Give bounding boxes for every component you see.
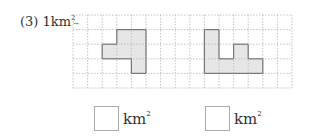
grid-shapes — [102, 30, 263, 74]
left-shape-cell — [131, 44, 146, 59]
right-shape-cell — [248, 59, 263, 74]
answer-unit-2: km2 — [234, 110, 262, 128]
unit-text: km — [234, 110, 257, 128]
left-shape-cell — [117, 30, 132, 45]
right-shape-cell — [234, 44, 249, 59]
left-shape-cell — [131, 30, 146, 45]
right-shape-cell — [234, 59, 249, 74]
answer-box-1[interactable] — [94, 106, 119, 131]
right-shape-cell — [204, 59, 219, 74]
right-shape-cell — [204, 44, 219, 59]
right-shape-cell — [219, 59, 234, 74]
unit-text: km — [123, 110, 146, 128]
answer-box-2[interactable] — [205, 106, 230, 131]
unit-exponent: 2 — [257, 110, 261, 118]
right-shape-cell — [204, 30, 219, 45]
left-shape-cell — [131, 59, 146, 74]
left-shape-cell — [102, 44, 117, 59]
left-shape-cell — [117, 44, 132, 59]
answer-unit-1: km2 — [123, 110, 151, 128]
area-grid — [0, 0, 311, 140]
unit-exponent: 2 — [146, 110, 150, 118]
